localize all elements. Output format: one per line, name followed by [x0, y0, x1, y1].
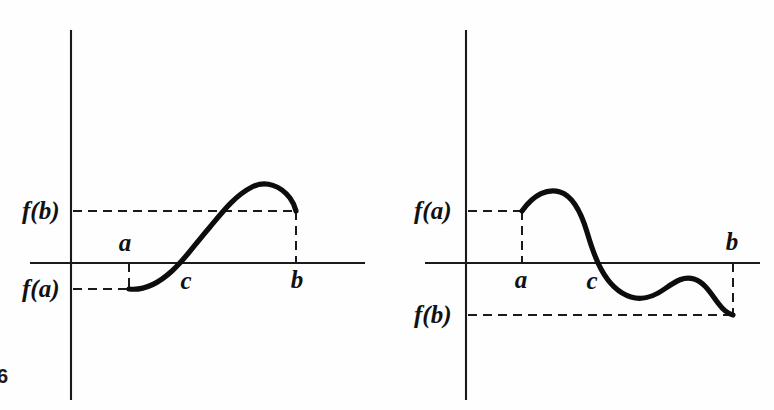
left-label-point-a: a [119, 229, 132, 256]
right-label-point-c: c [586, 267, 597, 294]
right-label-f-of-b: f(b) [414, 301, 451, 329]
left-label-point-b: b [291, 266, 304, 293]
figure-number: 6 [0, 365, 8, 388]
panel-left: f(b) f(a) a c b [22, 30, 365, 400]
left-function-curve [129, 184, 296, 289]
left-label-point-c: c [180, 267, 191, 294]
figure-page: f(b) f(a) a c b f(a) f(b) a c b 6 [0, 0, 774, 410]
figure-canvas: f(b) f(a) a c b f(a) f(b) a c b [0, 0, 774, 410]
right-function-curve [522, 191, 733, 315]
right-label-point-a: a [515, 266, 528, 293]
right-label-f-of-a: f(a) [414, 197, 451, 225]
right-label-point-b: b [726, 228, 739, 255]
left-label-f-of-b: f(b) [22, 197, 59, 225]
left-label-f-of-a: f(a) [22, 275, 59, 303]
panel-right: f(a) f(b) a c b [414, 30, 760, 400]
